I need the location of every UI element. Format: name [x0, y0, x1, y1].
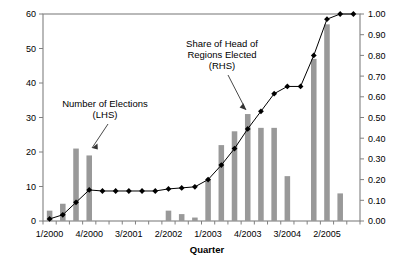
x-axis-tick-label: 4/2003	[234, 229, 262, 239]
right-axis-tick-label: 0.90	[368, 30, 386, 40]
annotation-share-line-1: Share of Head of	[186, 38, 258, 49]
annotation-number-of-elections-line-1: Number of Elections	[62, 98, 148, 109]
right-axis-tick-label: 0.00	[368, 216, 386, 226]
left-axis-tick-label: 0	[31, 216, 36, 226]
right-axis-tick-label: 1.00	[368, 9, 386, 19]
left-axis-tick-label: 10	[26, 182, 36, 192]
line-marker	[113, 188, 119, 194]
x-axis-tick-label: 2/2005	[313, 229, 341, 239]
bar	[337, 193, 343, 221]
line-marker	[166, 186, 172, 192]
x-axis-tick-label: 2/2002	[155, 229, 183, 239]
annotation-share-of-head-of-regions-elected: Share of Head of Regions Elected (RHS)	[186, 38, 258, 110]
left-axis-tick-label: 20	[26, 147, 36, 157]
line-marker	[324, 16, 330, 22]
x-axis-title: Quarter	[190, 244, 225, 255]
annotation-number-of-elections-line-2: (LHS)	[93, 109, 118, 120]
left-axis-tick-label: 30	[26, 113, 36, 123]
annotation-share-line-2: Regions Elected	[187, 49, 256, 60]
x-axis-tick-label: 1/2000	[36, 229, 64, 239]
left-axis-ticks: 0102030405060	[26, 9, 43, 226]
bar	[205, 180, 211, 221]
line-marker	[152, 188, 158, 194]
bar	[219, 145, 225, 221]
bar	[324, 24, 330, 221]
bar	[232, 131, 238, 221]
right-axis-tick-label: 0.10	[368, 196, 386, 206]
bar	[179, 214, 185, 221]
line-marker	[100, 188, 106, 194]
annotation-number-of-elections-leader-line	[92, 124, 108, 148]
annotation-number-of-elections: Number of Elections (LHS)	[62, 98, 148, 150]
right-axis-tick-label: 0.20	[368, 175, 386, 185]
chart-svg: 0102030405060 0.000.100.200.300.400.500.…	[0, 0, 414, 265]
bar	[73, 149, 79, 221]
right-axis-tick-label: 0.40	[368, 134, 386, 144]
line-marker	[139, 188, 145, 194]
line-marker	[126, 188, 132, 194]
bar	[271, 128, 277, 221]
line-marker	[311, 53, 317, 59]
bar	[258, 128, 264, 221]
left-axis-tick-label: 40	[26, 78, 36, 88]
bar	[285, 176, 291, 221]
bar	[192, 218, 198, 221]
x-axis-tick-label: 1/2003	[194, 229, 222, 239]
annotation-share-arrowhead	[240, 103, 246, 110]
right-axis-tick-label: 0.60	[368, 92, 386, 102]
line-marker	[179, 185, 185, 191]
line-marker	[284, 84, 290, 90]
right-axis-tick-label: 0.50	[368, 113, 386, 123]
chart-container: 0102030405060 0.000.100.200.300.400.500.…	[0, 0, 414, 265]
line-marker	[337, 11, 343, 17]
line-marker	[192, 184, 198, 190]
x-axis-tick-label: 3/2004	[274, 229, 302, 239]
annotation-share-line-3: (RHS)	[209, 60, 235, 71]
right-axis-ticks: 0.000.100.200.300.400.500.600.700.800.90…	[360, 9, 386, 226]
x-axis-tick-label: 3/2001	[115, 229, 143, 239]
right-axis-tick-label: 0.30	[368, 154, 386, 164]
line-marker	[351, 11, 357, 17]
right-axis-tick-label: 0.80	[368, 51, 386, 61]
left-axis-tick-label: 60	[26, 9, 36, 19]
line-marker	[298, 84, 304, 90]
x-axis-tick-label: 4/2000	[75, 229, 103, 239]
bar	[166, 211, 172, 221]
bar	[311, 59, 317, 221]
x-axis-tick-labels: 1/20004/20003/20012/20021/20034/20033/20…	[36, 229, 341, 239]
left-axis-tick-label: 50	[26, 44, 36, 54]
right-axis-tick-label: 0.70	[368, 72, 386, 82]
